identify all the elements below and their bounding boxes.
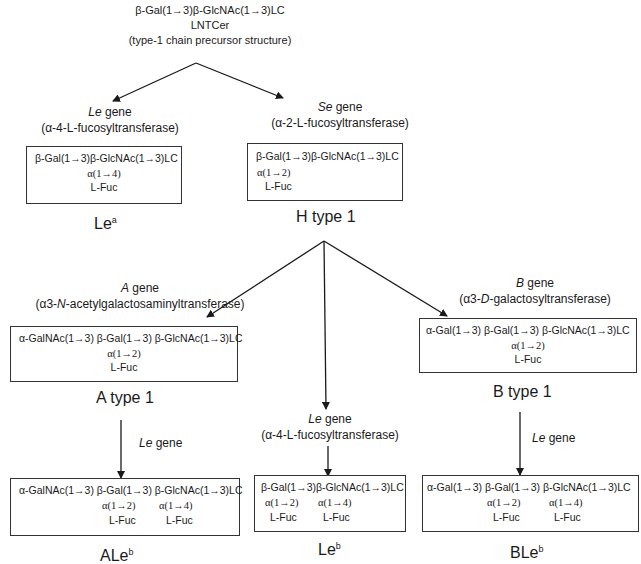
enzyme-name: (α3-N-acetylgalactosaminyltransferase) [30, 296, 250, 312]
precursor-formula: β-Gal(1→3)β-GlcNAc(1→3)LC [120, 3, 300, 18]
le-gene-label-left: Le gene [139, 435, 182, 451]
bleb-label: BLeb [510, 540, 543, 562]
lea-structure-box: β-Gal(1→3)β-GlcNAc(1→3)LC α(1→4) L-Fuc [26, 146, 182, 204]
a-type1-label: A type 1 [96, 389, 154, 407]
precursor-structure: β-Gal(1→3)β-GlcNAc(1→3)LC LNTCer (type-1… [120, 3, 300, 48]
lea-label: Lea [94, 211, 117, 233]
se-gene-label: Se gene (α-2-L-fucosyltransferase) [250, 99, 430, 131]
arrow-to-lea [113, 63, 196, 101]
a-gene-label: A gene (α3-N-acetylgalactosaminyltransfe… [30, 280, 250, 312]
precursor-description: (type-1 chain precursor structure) [120, 33, 300, 48]
aleb-label: ALeb [100, 543, 133, 564]
le-gene-label-middle: Le gene (α-4-L-fucosyltransferase) [240, 411, 420, 443]
leb-structure-box: β-Gal(1→3)β-GlcNAc(1→3)LC α(1→2) L-Fuc α… [254, 475, 406, 532]
arrow-to-leb [324, 241, 326, 409]
a-type1-structure-box: α-GalNAc(1→3) β-Gal(1→3) β-GlcNAc(1→3)LC… [10, 326, 238, 382]
precursor-name: LNTCer [120, 18, 300, 33]
gene-name: A [121, 281, 129, 295]
b-gene-label: B gene (α3-D-galactosyltransferase) [440, 275, 630, 307]
leb-label: Leb [318, 537, 341, 559]
enzyme-name: (α-4-L-fucosyltransferase) [240, 427, 420, 443]
arrow-to-b-type1 [324, 241, 447, 316]
h-type1-structure-box: β-Gal(1→3)β-GlcNAc(1→3)LC α(1→2) L-Fuc [247, 143, 403, 201]
gene-name: B [516, 276, 524, 290]
bleb-structure-box: α-Gal(1→3) β-Gal(1→3) β-GlcNAc(1→3)LC α(… [422, 475, 639, 532]
b-type1-structure-box: α-Gal(1→3) β-Gal(1→3) β-GlcNAc(1→3)LC α(… [419, 318, 637, 373]
enzyme-name: (α3-D-galactosyltransferase) [440, 291, 630, 307]
le-gene-label-top: Le gene (α-4-L-fucosyltransferase) [20, 104, 200, 136]
gene-name: Le [88, 105, 101, 119]
gene-name: Le [308, 412, 321, 426]
arrow-to-h-type1 [196, 63, 283, 98]
enzyme-name: (α-4-L-fucosyltransferase) [20, 120, 200, 136]
aleb-structure-box: α-GalNAc(1→3) β-Gal(1→3) β-GlcNAc(1→3)LC… [10, 478, 240, 536]
le-gene-label-right: Le gene [532, 430, 575, 446]
b-type1-label: B type 1 [493, 383, 552, 401]
enzyme-name: (α-2-L-fucosyltransferase) [250, 115, 430, 131]
h-type1-label: H type 1 [296, 208, 356, 226]
gene-name: Se [318, 100, 333, 114]
